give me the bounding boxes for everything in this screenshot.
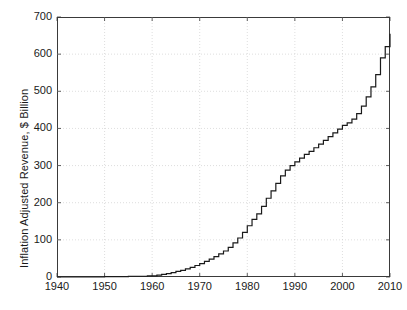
x-axis-tick-label: 2000 xyxy=(321,281,363,292)
x-axis-tick-labels: 19401950196019701980199020002010 xyxy=(0,281,407,301)
x-axis-tick-label: 1960 xyxy=(131,281,173,292)
chart-svg-canvas xyxy=(0,0,407,310)
x-axis-tick-label: 2010 xyxy=(369,281,407,292)
x-axis-tick-label: 1980 xyxy=(226,281,268,292)
chart-figure: Inflation Adjusted Revenue, $ Billion 01… xyxy=(0,0,407,310)
x-axis-tick-label: 1970 xyxy=(179,281,221,292)
x-axis-tick-label: 1990 xyxy=(274,281,316,292)
axis-tick-marks xyxy=(57,17,390,277)
gridlines xyxy=(57,17,390,277)
x-axis-tick-label: 1950 xyxy=(84,281,126,292)
revenue-step-line xyxy=(57,34,390,277)
x-axis-tick-label: 1940 xyxy=(36,281,78,292)
